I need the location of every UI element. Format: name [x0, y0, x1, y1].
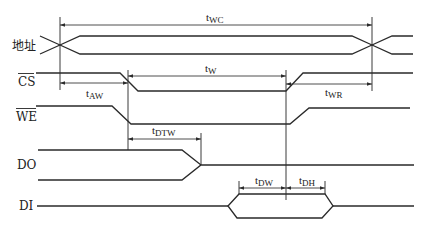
label-do: DO: [17, 158, 37, 172]
label-tdw: tDW: [255, 174, 274, 188]
label-di: DI: [19, 199, 34, 213]
label-twc: tWC: [206, 11, 224, 25]
label-we: WE: [16, 110, 37, 124]
waveform-we: [36, 106, 410, 124]
waveform-di: [37, 194, 414, 218]
write-cycle-timing-diagram: 地址 CS WE DO DI tWC: [0, 0, 424, 228]
signal-labels: 地址 CS WE DO DI: [12, 39, 37, 213]
label-tw: tW: [205, 62, 217, 76]
label-address: 地址: [12, 39, 36, 53]
waveform-address: [40, 36, 413, 54]
waveform-do: [38, 150, 414, 180]
label-cs: CS: [18, 75, 35, 89]
timing-annotations: tWC tAW tW tWR tDTW tDW tDH: [60, 11, 372, 188]
label-tdh: tDH: [299, 174, 316, 188]
label-tdtw: tDTW: [152, 124, 176, 138]
label-twr: tWR: [325, 86, 343, 100]
label-taw: tAW: [86, 87, 104, 101]
